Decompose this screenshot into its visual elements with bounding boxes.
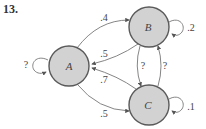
node-a: A xyxy=(49,46,89,86)
node-c: C xyxy=(129,85,169,125)
self-loop-b xyxy=(169,20,183,35)
problem-number: 13. xyxy=(3,2,18,16)
edge-label-c-to-a: .7 xyxy=(100,74,108,85)
edge-label-a-to-b: .4 xyxy=(100,12,108,23)
self-loop-a xyxy=(33,58,48,73)
edge-b-to-a xyxy=(92,44,138,64)
edge-c-to-b xyxy=(158,46,161,86)
edge-label-b-to-a: .5 xyxy=(100,48,108,59)
self-loop-c xyxy=(169,97,183,112)
node-b: B xyxy=(129,7,169,47)
edge-label-c-to-b: ? xyxy=(163,60,168,71)
edge-c-to-a xyxy=(92,68,136,89)
node-b-label: B xyxy=(145,21,152,33)
self-loop-label-b: .2 xyxy=(187,22,195,33)
self-loop-label-c: .1 xyxy=(187,101,195,112)
node-a-label: A xyxy=(65,60,73,72)
edge-label-b-to-c: ? xyxy=(141,60,146,71)
edge-label-a-to-c: .5 xyxy=(100,108,108,119)
markov-chain-diagram: 13. .4 .5 .7 .5 ? ? ? .2 .1 A B C xyxy=(0,0,206,129)
self-loop-label-a: ? xyxy=(24,59,29,70)
node-c-label: C xyxy=(144,99,152,111)
edge-a-to-b xyxy=(77,20,129,48)
